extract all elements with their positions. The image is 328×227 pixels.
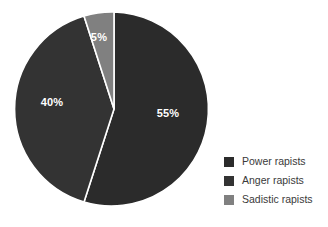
pie-label-power-rapists: 55% (157, 107, 180, 119)
legend-item-power-rapists: Power rapists (224, 152, 328, 171)
pie-label-anger-rapists: 40% (41, 96, 64, 108)
legend-label-sadistic-rapists: Sadistic rapists (242, 194, 313, 205)
legend-label-anger-rapists: Anger rapists (242, 175, 304, 186)
legend-swatch-sadistic-rapists (224, 195, 234, 205)
pie-chart-figure: 55% 40% 5% Power rapists Anger rapists S… (0, 0, 328, 227)
legend-label-power-rapists: Power rapists (242, 156, 306, 167)
pie-label-sadistic-rapists: 5% (91, 31, 107, 43)
legend-item-anger-rapists: Anger rapists (224, 171, 328, 190)
legend-swatch-anger-rapists (224, 176, 234, 186)
legend-swatch-power-rapists (224, 157, 234, 167)
chart-legend: Power rapists Anger rapists Sadistic rap… (224, 152, 328, 209)
legend-item-sadistic-rapists: Sadistic rapists (224, 190, 328, 209)
